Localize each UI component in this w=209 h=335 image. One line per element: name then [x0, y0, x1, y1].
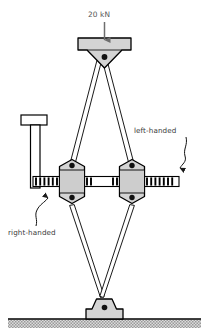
base-support-block — [86, 299, 123, 319]
pin-right-lower — [129, 195, 134, 200]
ground-hatching — [8, 319, 201, 328]
left-nut-block — [60, 160, 85, 204]
right-nut-block — [120, 160, 145, 204]
load-label: 20 kN — [88, 10, 110, 19]
link-bottom-right — [100, 205, 135, 298]
mechanism-drawing — [0, 0, 209, 335]
pin-left-lower — [69, 195, 74, 200]
pin-right-upper — [129, 163, 134, 168]
link-top-left — [70, 60, 102, 166]
right-handed-label: right-handed — [8, 228, 56, 237]
link-top-right — [103, 60, 135, 166]
left-hand-thread-marks — [147, 177, 172, 185]
pin-bottom — [102, 305, 108, 311]
left-handed-label: left-handed — [134, 126, 176, 135]
pin-top — [102, 54, 108, 60]
right-handed-leader-icon — [36, 198, 48, 226]
diagram-canvas: 20 kN left-handed right-handed — [0, 0, 209, 335]
pin-left-upper — [69, 163, 74, 168]
top-load-block — [78, 38, 131, 68]
turnbuckle-threaded-rod — [33, 177, 179, 187]
left-handed-leader-icon — [180, 137, 186, 168]
link-bottom-left — [70, 205, 105, 298]
